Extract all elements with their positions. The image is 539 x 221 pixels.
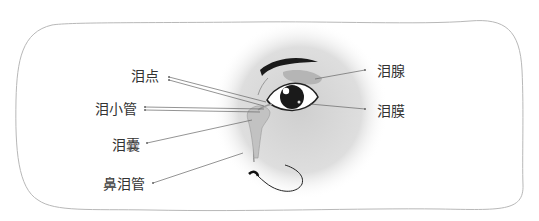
lacrimal-diagram (0, 0, 539, 221)
pupil-highlight-small (298, 101, 301, 104)
label-lacrimal-sac: 泪囊 (112, 137, 140, 153)
label-lacrimal-canaliculus: 泪小管 (95, 101, 137, 117)
label-lacrimal-punctum: 泪点 (131, 68, 159, 84)
label-tear-film: 泪膜 (377, 103, 405, 119)
pupil-highlight (283, 88, 289, 94)
label-nasolacrimal-duct: 鼻泪管 (103, 176, 145, 192)
iris-icon (280, 85, 304, 109)
label-lacrimal-gland: 泪腺 (377, 63, 405, 79)
